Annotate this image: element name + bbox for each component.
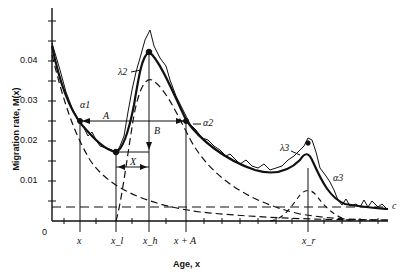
xtick-x: x bbox=[77, 235, 81, 246]
label-x-interval: X bbox=[130, 156, 136, 167]
labor-force-curve bbox=[116, 80, 388, 221]
pre-labor-curve bbox=[52, 55, 388, 220]
fitted-curve bbox=[52, 46, 388, 209]
ytick-0.02: 0.02 bbox=[20, 135, 38, 145]
label-alpha2: α2 bbox=[203, 117, 213, 128]
label-lambda2: λ2 bbox=[118, 66, 127, 77]
xtick-xl: x_l bbox=[111, 235, 123, 246]
label-a: A bbox=[103, 110, 109, 121]
y-axis-label: Migration rate, M(x) bbox=[11, 69, 21, 189]
migration-chart bbox=[0, 0, 404, 276]
ytick-0.04: 0.04 bbox=[20, 55, 38, 65]
arrow-b bbox=[146, 142, 152, 150]
ytick-0: 0 bbox=[42, 227, 47, 237]
xtick-xh: x_h bbox=[143, 235, 157, 246]
label-c: c bbox=[392, 200, 396, 211]
label-b: B bbox=[154, 125, 160, 136]
ytick-0.01: 0.01 bbox=[20, 175, 38, 185]
label-lambda3: λ3 bbox=[280, 142, 289, 153]
xtick-x-plus-a: x + A bbox=[174, 235, 196, 246]
retirement-curve bbox=[270, 191, 352, 222]
label-alpha3: α3 bbox=[333, 172, 343, 183]
x-axis-label: Age, x bbox=[173, 259, 200, 269]
xtick-xr: x_r bbox=[302, 235, 315, 246]
label-alpha1: α1 bbox=[80, 99, 90, 110]
ytick-0.03: 0.03 bbox=[20, 95, 38, 105]
